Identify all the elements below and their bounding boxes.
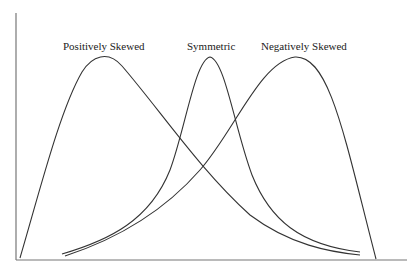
label-positively-skewed: Positively Skewed (63, 40, 145, 52)
negatively-skewed-curve (65, 57, 376, 259)
label-symmetric: Symmetric (187, 40, 235, 52)
figure-caption (80, 266, 340, 277)
label-negatively-skewed: Negatively Skewed (261, 40, 347, 52)
positively-skewed-curve (20, 57, 360, 258)
